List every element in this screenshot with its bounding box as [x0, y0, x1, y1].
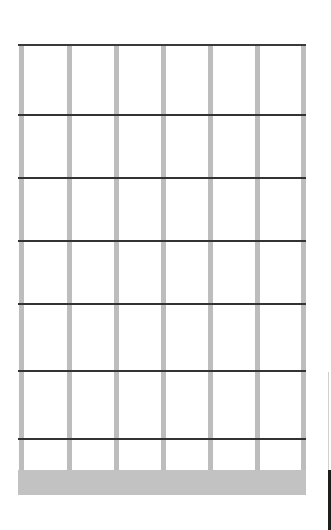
- edge-divider: [328, 372, 329, 470]
- string-7: [301, 46, 306, 472]
- string-6: [255, 46, 260, 472]
- fretboard-base: [18, 470, 306, 495]
- fretboard-diagram: [0, 0, 331, 530]
- string-3: [114, 46, 119, 472]
- fret-line-2: [18, 177, 306, 179]
- string-2: [67, 46, 72, 472]
- string-4: [161, 46, 166, 472]
- fret-line-5: [18, 370, 306, 372]
- fret-line-4: [18, 303, 306, 305]
- fret-line-1: [18, 114, 306, 116]
- nut-line: [18, 44, 306, 46]
- fret-line-6: [18, 438, 306, 440]
- string-5: [208, 46, 213, 472]
- fret-line-3: [18, 240, 306, 242]
- string-1: [19, 46, 24, 472]
